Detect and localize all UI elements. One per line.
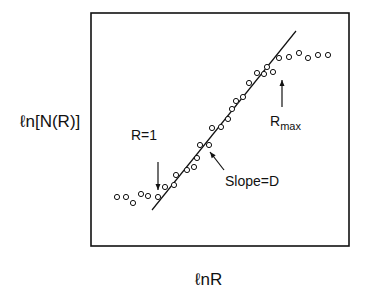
data-point — [162, 184, 167, 189]
data-point — [286, 54, 291, 59]
data-point — [276, 55, 281, 60]
data-point — [229, 106, 234, 111]
data-point — [194, 155, 199, 160]
x-axis-label: ℓnR — [195, 270, 222, 290]
data-point — [296, 50, 301, 55]
data-point — [155, 194, 160, 199]
annotation-rmax: Rmax — [270, 113, 301, 132]
data-point — [138, 191, 143, 196]
rmax-subscript: max — [280, 120, 301, 132]
y-axis-label: ℓn[N(R)] — [20, 112, 80, 132]
data-point — [264, 64, 269, 69]
data-point — [130, 200, 135, 205]
data-point — [305, 55, 310, 60]
data-point — [114, 194, 119, 199]
data-point — [246, 80, 251, 85]
data-point — [254, 70, 259, 75]
arrow-head-icon — [280, 80, 285, 86]
data-point — [171, 182, 176, 187]
arrow-head-icon — [156, 184, 161, 190]
data-point — [184, 167, 189, 172]
data-point — [145, 193, 150, 198]
ln-prefix: ℓn — [20, 112, 35, 131]
data-point — [270, 69, 275, 74]
annotation-slope: Slope=D — [225, 173, 279, 189]
data-point — [191, 164, 196, 169]
rmax-label: R — [270, 113, 280, 129]
y-axis-body: [N(R)] — [35, 112, 80, 131]
annotation-r1: R=1 — [131, 127, 157, 143]
data-point — [240, 94, 245, 99]
chart-canvas — [0, 0, 366, 305]
data-point — [123, 194, 128, 199]
data-point — [173, 172, 178, 177]
data-point — [197, 142, 202, 147]
data-point — [325, 52, 330, 57]
data-point — [261, 71, 266, 76]
data-point — [233, 98, 238, 103]
data-point — [206, 142, 211, 147]
data-point — [218, 124, 223, 129]
data-point — [225, 116, 230, 121]
data-point — [315, 52, 320, 57]
data-point — [209, 125, 214, 130]
